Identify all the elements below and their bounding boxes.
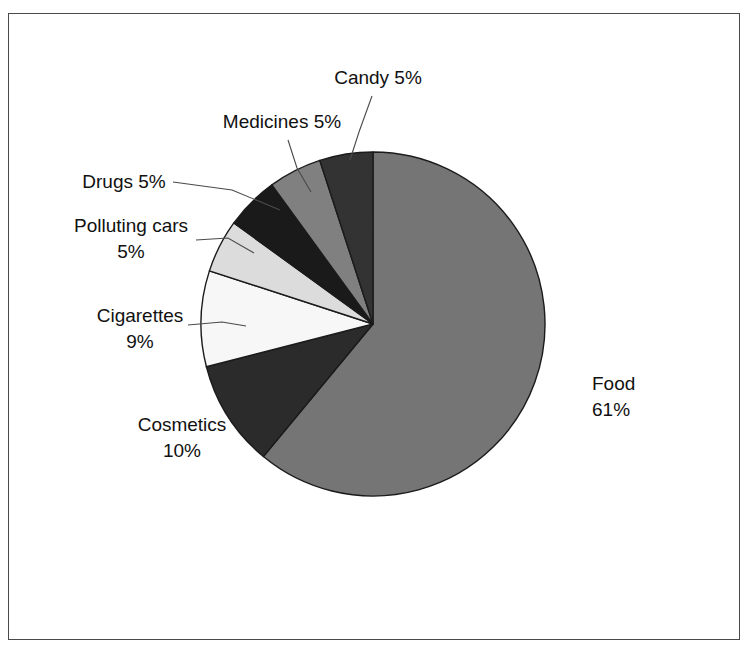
pie-label-polluting-cars: Polluting cars5% bbox=[74, 215, 188, 262]
pie-chart-figure: Food61%Cosmetics10%Cigarettes9%Polluting… bbox=[0, 0, 751, 655]
pie-label-line: 5% bbox=[117, 241, 145, 262]
pie-label-line: Candy 5% bbox=[334, 67, 422, 88]
pie-label-line: 10% bbox=[163, 440, 201, 461]
pie-label-line: Cosmetics bbox=[138, 414, 227, 435]
pie-chart-canvas: Food61%Cosmetics10%Cigarettes9%Polluting… bbox=[0, 0, 751, 655]
pie-label-line: Cigarettes bbox=[97, 305, 184, 326]
pie-label-line: Food bbox=[592, 373, 635, 394]
pie-label-line: Medicines 5% bbox=[223, 111, 341, 132]
pie-label-food: Food61% bbox=[592, 373, 635, 420]
pie-label-drugs: Drugs 5% bbox=[82, 171, 166, 192]
pie-label-line: Polluting cars bbox=[74, 215, 188, 236]
pie-label-medicines: Medicines 5% bbox=[223, 111, 341, 132]
leader-line-candy bbox=[350, 96, 372, 160]
pie-label-cigarettes: Cigarettes9% bbox=[97, 305, 184, 352]
pie-label-cosmetics: Cosmetics10% bbox=[138, 414, 227, 461]
pie-label-line: 61% bbox=[592, 399, 630, 420]
pie-label-line: 9% bbox=[126, 331, 154, 352]
pie-slices bbox=[201, 152, 545, 496]
pie-label-candy: Candy 5% bbox=[334, 67, 422, 88]
pie-label-line: Drugs 5% bbox=[82, 171, 166, 192]
